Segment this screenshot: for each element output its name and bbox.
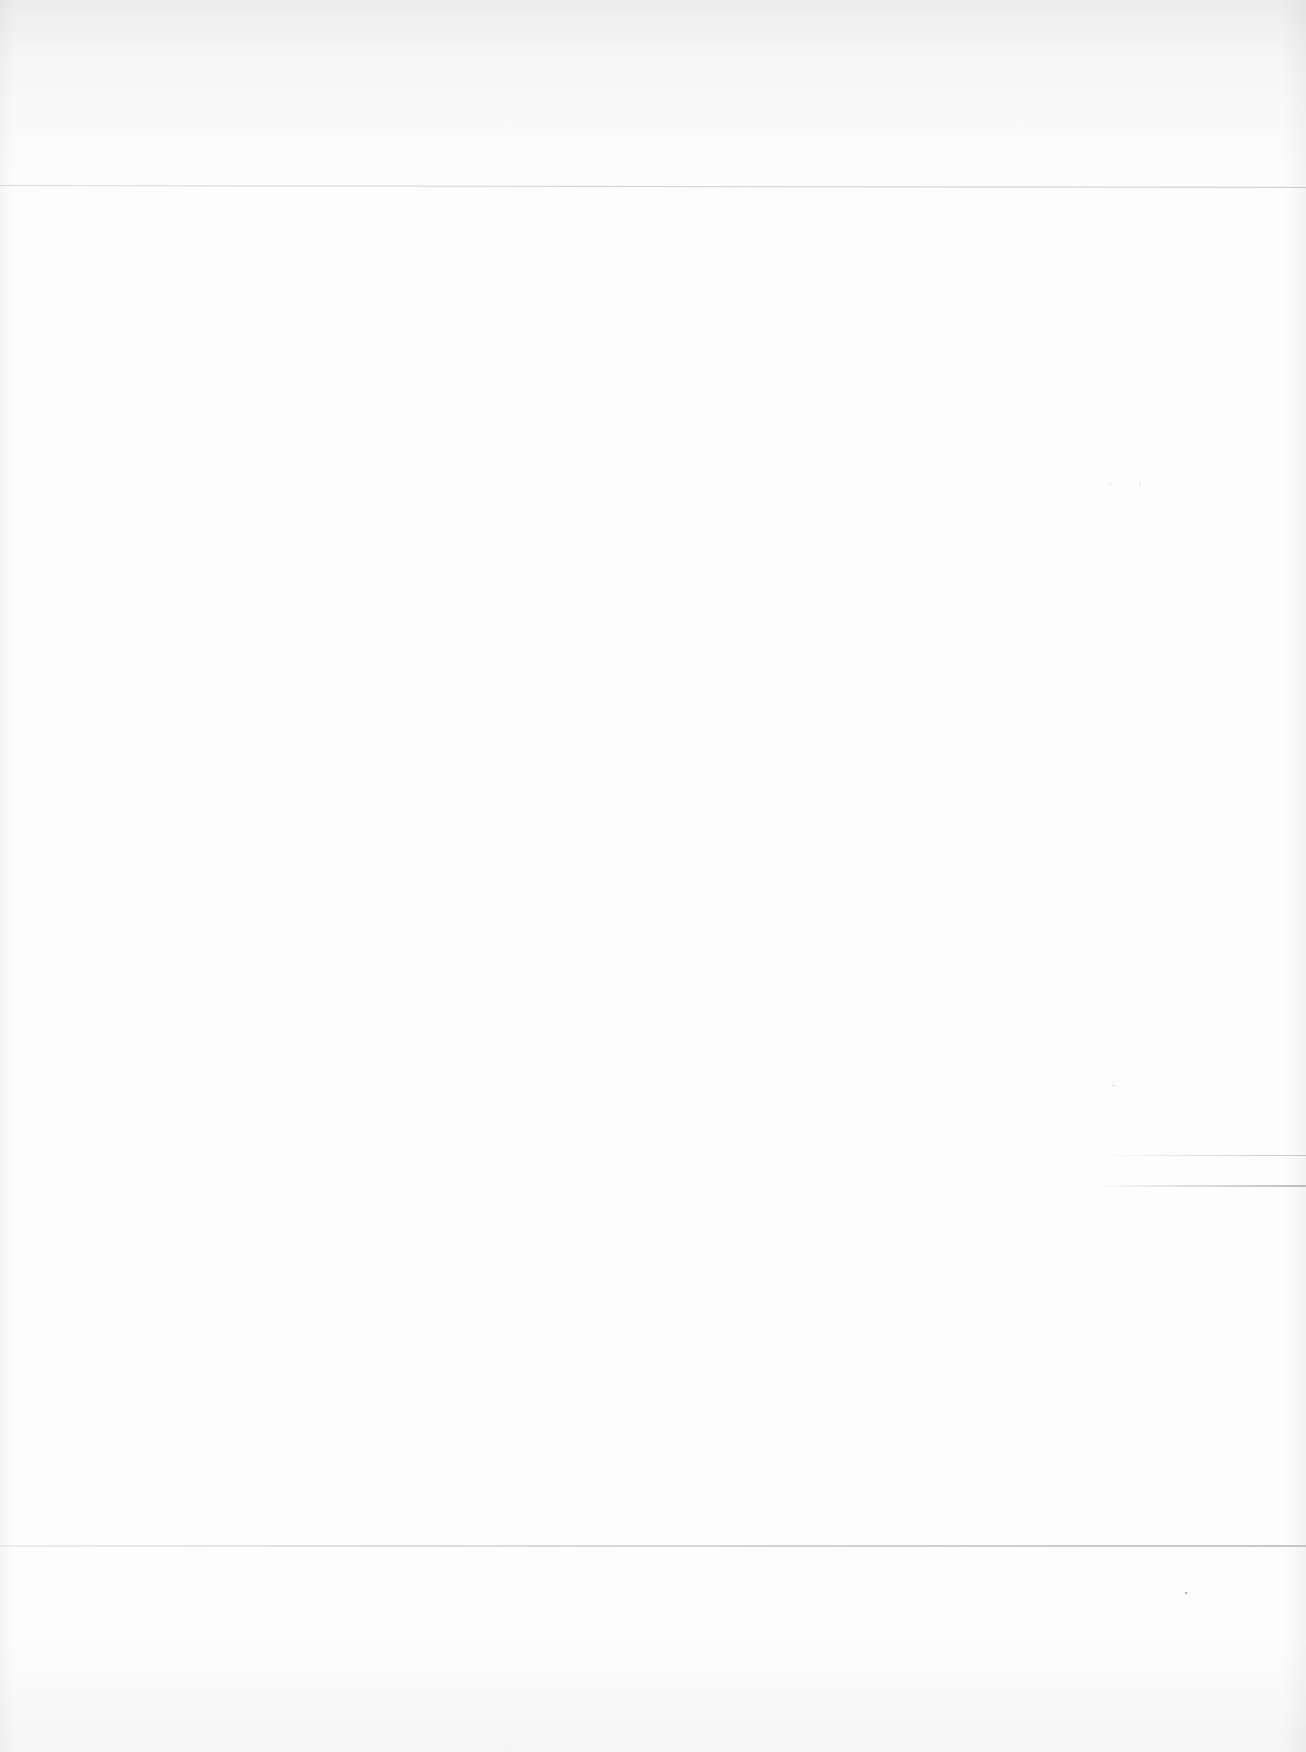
page-bottom-shadow <box>0 1632 1306 1752</box>
paper-speck <box>1185 1592 1187 1594</box>
page-edge-shadow-right <box>1282 0 1306 1752</box>
blank-page <box>0 0 1306 1752</box>
fold-crease-bottom <box>0 1545 1306 1547</box>
fold-crease-middle <box>1090 1185 1306 1187</box>
page-edge-shadow-left <box>0 0 14 1752</box>
paper-speck <box>1110 484 1111 485</box>
paper-speck <box>1113 1085 1114 1086</box>
paper-speck <box>1140 484 1141 485</box>
fold-crease-top <box>0 185 1306 188</box>
fold-crease-middle <box>1090 1155 1306 1156</box>
